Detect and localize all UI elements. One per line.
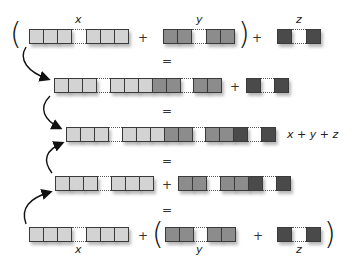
y-cell xyxy=(234,176,249,191)
z-cell xyxy=(277,227,292,242)
plus-sign: + xyxy=(252,32,262,44)
arrow-row5-to-row4 xyxy=(24,192,50,224)
x-cell xyxy=(138,78,153,93)
y-cell xyxy=(207,227,222,242)
plus-sign: + xyxy=(162,179,172,191)
z-cell xyxy=(306,29,321,44)
label-z: z xyxy=(296,244,302,256)
y-cell xyxy=(192,176,207,191)
y-cell xyxy=(177,29,192,44)
ellipsis-gap xyxy=(207,176,220,191)
y-cell xyxy=(178,127,193,142)
ellipsis-gap xyxy=(248,127,261,142)
y-cell xyxy=(166,78,181,93)
y-cell xyxy=(152,78,167,93)
y-cell xyxy=(205,127,220,142)
y-cell xyxy=(206,29,221,44)
x-cell xyxy=(122,127,137,142)
open-paren: ( xyxy=(152,219,164,249)
z-cell xyxy=(274,78,289,93)
x-cell xyxy=(43,29,58,44)
arrow-row2-to-row3 xyxy=(44,96,60,128)
label-z: z xyxy=(296,14,302,26)
associativity-diagram: ( x + y ) + z = + xyxy=(0,0,358,274)
close-paren: ) xyxy=(238,19,250,49)
ellipsis-gap xyxy=(292,29,306,44)
ellipsis-gap xyxy=(194,227,207,242)
x-cell xyxy=(29,227,44,242)
ellipsis-gap xyxy=(192,29,206,44)
arrow-row4-to-row3 xyxy=(47,143,62,173)
x-cell xyxy=(29,29,44,44)
x-cell xyxy=(150,127,165,142)
x-cell xyxy=(114,227,129,242)
x-cell xyxy=(80,127,95,142)
z-cell xyxy=(276,176,291,191)
y-cell xyxy=(164,127,179,142)
y-cell xyxy=(220,29,235,44)
x-cell xyxy=(125,176,140,191)
x-cell xyxy=(124,78,139,93)
ellipsis-gap xyxy=(109,127,122,142)
x-cell xyxy=(55,176,70,191)
y-cell xyxy=(221,227,236,242)
x-cell xyxy=(100,29,115,44)
x-cell xyxy=(57,29,72,44)
equals-sign: = xyxy=(162,55,172,67)
x-cell xyxy=(110,78,125,93)
x-cell xyxy=(136,127,151,142)
plus-sign: + xyxy=(230,81,240,93)
z-cell xyxy=(277,29,292,44)
x-cell xyxy=(86,29,101,44)
y-cell xyxy=(207,78,222,93)
open-paren: ( xyxy=(10,19,22,49)
x-cell xyxy=(57,227,72,242)
z-cell xyxy=(306,227,321,242)
close-paren: ) xyxy=(324,219,336,249)
y-cell xyxy=(165,227,180,242)
ellipsis-gap xyxy=(97,78,110,93)
z-cell xyxy=(248,176,263,191)
equals-sign: = xyxy=(162,155,172,167)
label-y: y xyxy=(196,244,203,256)
y-cell xyxy=(220,176,235,191)
x-cell xyxy=(83,176,98,191)
y-cell xyxy=(178,176,193,191)
z-cell xyxy=(246,78,261,93)
label-y: y xyxy=(196,14,203,26)
ellipsis-gap xyxy=(181,78,193,93)
x-cell xyxy=(86,227,101,242)
equals-sign: = xyxy=(162,204,172,216)
x-cell xyxy=(66,127,81,142)
label-x: x xyxy=(75,244,82,256)
z-cell xyxy=(233,127,248,142)
result-label: x + y + z xyxy=(287,129,338,141)
x-cell xyxy=(100,227,115,242)
x-cell xyxy=(69,176,84,191)
x-cell xyxy=(111,176,126,191)
z-cell xyxy=(261,127,276,142)
x-cell xyxy=(139,176,154,191)
ellipsis-gap xyxy=(292,227,306,242)
plus-sign: + xyxy=(138,32,148,44)
x-cell xyxy=(94,127,109,142)
ellipsis-gap xyxy=(261,78,274,93)
equals-sign: = xyxy=(162,105,172,117)
y-cell xyxy=(163,29,178,44)
x-cell xyxy=(114,29,129,44)
arrow-row1-to-row2 xyxy=(23,47,48,79)
plus-sign: + xyxy=(138,230,148,242)
y-cell xyxy=(219,127,234,142)
x-cell xyxy=(54,78,69,93)
x-cell xyxy=(68,78,83,93)
y-cell xyxy=(179,227,194,242)
x-cell xyxy=(82,78,97,93)
label-x: x xyxy=(75,14,82,26)
ellipsis-gap xyxy=(72,29,86,44)
ellipsis-gap xyxy=(72,227,86,242)
plus-sign: + xyxy=(253,230,263,242)
y-cell xyxy=(193,78,208,93)
x-cell xyxy=(43,227,58,242)
ellipsis-gap xyxy=(193,127,205,142)
ellipsis-gap xyxy=(263,176,276,191)
